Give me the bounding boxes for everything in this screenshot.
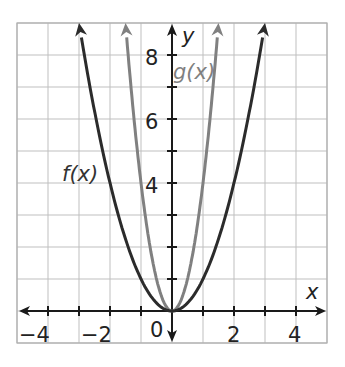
curve-arrow-icon bbox=[211, 23, 223, 36]
curve-arrow-icon bbox=[257, 23, 269, 37]
y-tick-label-4: 4 bbox=[145, 174, 158, 198]
x-axis-label: x bbox=[305, 280, 319, 304]
y-axis-label: y bbox=[181, 24, 195, 48]
graph: −4 −2 0 2 4 4 6 8 x y f(x) g(x) bbox=[0, 0, 345, 367]
curve-arrow-icon bbox=[75, 23, 87, 37]
y-tick-label-6: 6 bbox=[145, 110, 158, 134]
origin-label: 0 bbox=[150, 318, 163, 342]
g-label: g(x) bbox=[173, 60, 215, 84]
x-tick-label-neg2: −2 bbox=[81, 323, 112, 347]
x-tick-label-neg4: −4 bbox=[19, 323, 50, 347]
y-tick-label-8: 8 bbox=[145, 46, 158, 70]
x-tick-label-2: 2 bbox=[227, 323, 240, 347]
x-tick-label-4: 4 bbox=[288, 323, 301, 347]
curve-arrow-icon bbox=[121, 23, 133, 36]
f-label: f(x) bbox=[62, 162, 98, 186]
